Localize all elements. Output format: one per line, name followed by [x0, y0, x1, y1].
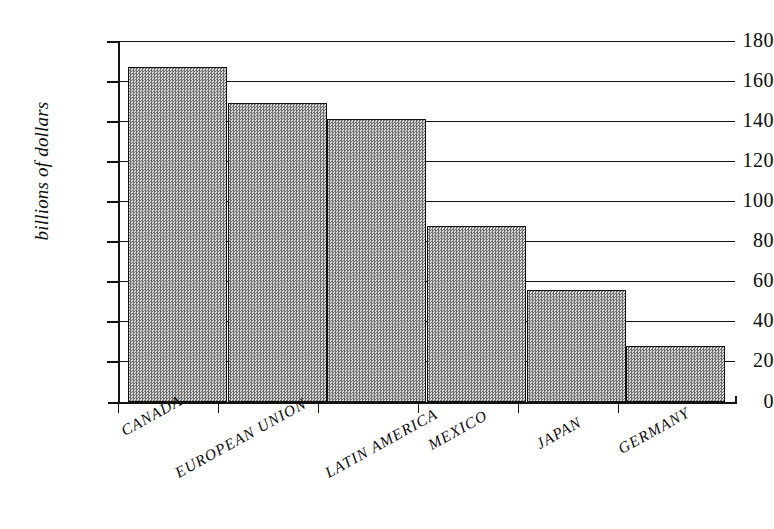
x-category-label-european-union: EUROPEAN UNION [172, 394, 310, 481]
bar-japan [527, 290, 626, 402]
plot-area [118, 41, 735, 402]
x-tick-mark-1 [218, 403, 219, 413]
x-category-label-germany: GERMANY [615, 404, 693, 458]
x-tick-mark-0 [118, 403, 119, 413]
x-tick-mark-5 [618, 403, 619, 413]
bar-canada [128, 67, 227, 402]
y-axis-title: billions of dollars [31, 51, 53, 291]
bar-european-union [228, 103, 327, 402]
x-tick-mark-4 [518, 403, 519, 413]
x-axis-spine [108, 402, 737, 404]
gridline-180 [118, 41, 735, 42]
x-axis-end-cap [735, 396, 737, 404]
bar-latin-america [327, 119, 426, 402]
bar-mexico [427, 226, 526, 402]
x-category-label-japan: JAPAN [533, 413, 585, 453]
x-tick-mark-2 [318, 403, 319, 413]
x-category-label-latin-america: LATIN AMERICA [322, 405, 441, 482]
bar-germany [626, 346, 725, 402]
bar-chart-figure: billions of dollars 180 160 140 120 100 … [0, 0, 774, 529]
